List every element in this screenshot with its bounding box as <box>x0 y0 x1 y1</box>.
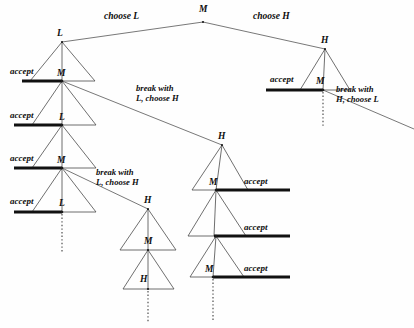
action-label-choose-H: choose H <box>253 11 290 21</box>
action-label-choose-L: choose L <box>104 11 139 21</box>
node-label-right-H: H <box>320 35 329 45</box>
tree-canvas: M L M L M L H M M H M H H M choose L cho… <box>0 0 414 328</box>
node-dot-left-M1 <box>61 80 64 83</box>
node-label-right-M: M <box>315 76 325 86</box>
node-dot-right-H <box>324 48 326 50</box>
edge-leftM2-right <box>62 168 96 212</box>
node-dot-root-M <box>202 21 204 23</box>
node-labels: M L M L M L H M M H M H H M <box>56 4 329 284</box>
break-label-3-line1: break with <box>336 84 374 94</box>
break-label-2-line2: L, choose H <box>95 177 139 187</box>
accept-label-mid-3: accept <box>244 263 268 273</box>
edge-midM1-mid <box>214 190 216 236</box>
node-label-mid-M3: M <box>204 264 214 274</box>
node-dot-left-L2 <box>61 124 64 127</box>
accept-label-right: accept <box>270 74 294 84</box>
accept-label-mid-2: accept <box>244 222 268 232</box>
node-dot-left-L <box>61 41 63 43</box>
break-label-2-line1: break with <box>96 167 134 177</box>
node-label-lower-H2: H <box>139 274 148 284</box>
edge-leftL-right <box>62 42 95 81</box>
node-label-left-L3: L <box>58 198 65 208</box>
node-dot-mid-H1 <box>221 144 223 146</box>
node-dot-left-M2 <box>61 167 64 170</box>
node-dot-lower-H1 <box>147 208 149 210</box>
accept-label-left-2: accept <box>10 110 34 120</box>
node-dot-right-M <box>322 89 325 92</box>
break-label-1-line1: break with <box>136 83 174 93</box>
top-action-labels: choose L choose H <box>104 11 290 21</box>
edge-root-to-right-H <box>203 22 325 49</box>
accept-label-left-3: accept <box>10 153 34 163</box>
break-label-3-line2: H, choose L <box>335 94 379 104</box>
node-dot-lower-M1 <box>147 249 149 251</box>
node-dot-lower-H2 <box>147 288 149 290</box>
node-dot-mid-M2 <box>215 235 218 238</box>
node-label-lower-H1: H <box>143 195 152 205</box>
node-label-lower-M1: M <box>143 236 153 246</box>
game-tree-diagram: M L M L M L H M M H M H H M choose L cho… <box>0 0 414 328</box>
accept-label-mid-1: accept <box>244 176 268 186</box>
edge-midM1-left <box>188 190 216 236</box>
accept-bars-left <box>14 81 62 212</box>
node-markers <box>61 21 326 290</box>
node-label-mid-H1: H <box>217 131 226 141</box>
node-label-left-M1: M <box>56 68 66 78</box>
edge-midM2-accept <box>216 236 244 277</box>
node-label-mid-M1: M <box>208 177 218 187</box>
edge-leftM1-accept <box>32 81 62 125</box>
node-label-left-L2: L <box>58 112 65 122</box>
node-label-left-M2: M <box>56 155 66 165</box>
edge-midH1-left <box>192 145 222 190</box>
edge-root-to-left-L <box>62 22 203 42</box>
break-label-1-line2: L, choose H <box>135 93 179 103</box>
edge-lowerM-right <box>148 250 174 289</box>
node-label-left-L: L <box>56 28 63 38</box>
mid-chain-edges <box>188 145 248 277</box>
node-dot-left-L3 <box>61 211 64 214</box>
edge-midM1-accept <box>216 190 246 236</box>
edge-leftL2-right <box>62 125 96 168</box>
accept-label-left-4: accept <box>10 196 34 206</box>
node-label-root-M: M <box>198 4 208 14</box>
edge-leftM2-accept <box>32 168 62 212</box>
root-edges <box>62 22 325 49</box>
node-dot-mid-M1 <box>215 189 218 192</box>
node-dot-mid-M3 <box>212 276 215 279</box>
accept-label-left-1: accept <box>10 66 34 76</box>
